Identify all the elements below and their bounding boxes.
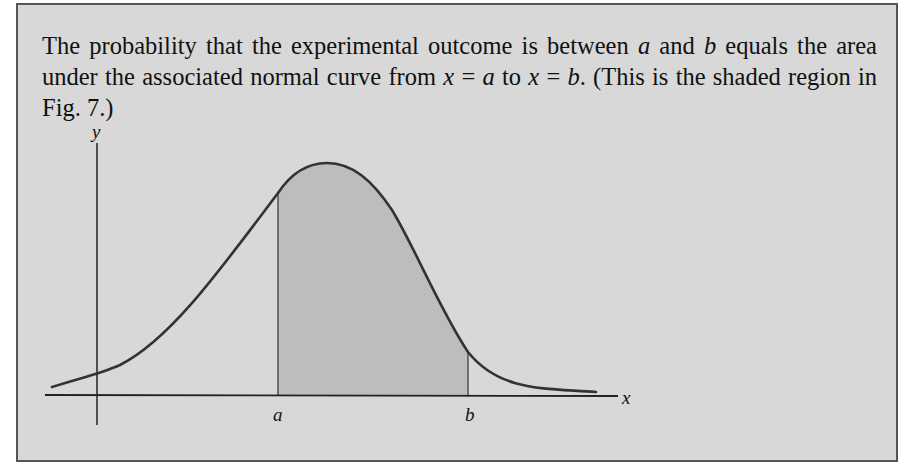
normal-curve-figure: y x a b [0,0,911,475]
b-tick-label: b [465,404,475,425]
y-axis-label: y [90,121,101,142]
a-tick-label: a [273,404,283,425]
x-axis-label: x [621,387,631,408]
x-axis [45,395,618,396]
shaded-area [278,163,468,395]
